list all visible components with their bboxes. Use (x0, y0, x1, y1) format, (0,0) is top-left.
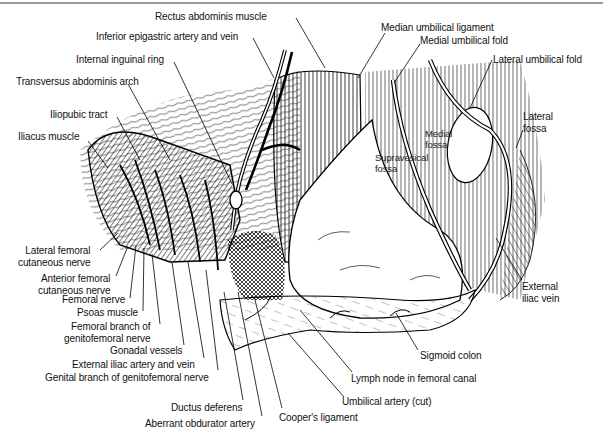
label-sigmoid-colon: Sigmoid colon (420, 350, 482, 362)
label-iliacus-muscle: Iliacus muscle (18, 131, 79, 143)
label-psoas-muscle: Psoas muscle (77, 307, 138, 319)
label-gonadal-vessels: Gonadal vessels (110, 345, 182, 357)
label-lateral-fossa: Lateral fossa (523, 111, 553, 135)
label-external-iliac-artery-vein: External iliac artery and vein (72, 359, 195, 371)
label-aberrant-obdurator-artery: Aberrant obdurator artery (145, 418, 255, 430)
label-femoral-branch-genitofemoral: Femoral branch of genitofemoral nerve (64, 321, 150, 345)
anatomy-figure: Rectus abdominis muscle Inferior epigast… (0, 0, 603, 440)
label-median-umbilical-ligament: Median umbilical ligament (381, 22, 494, 34)
label-lymph-node-femoral-canal: Lymph node in femoral canal (351, 373, 476, 385)
label-lateral-femoral-cutaneous-nerve: Lateral femoral cutaneous nerve (18, 245, 90, 269)
label-lateral-umbilical-fold: Lateral umbilical fold (493, 54, 582, 66)
label-internal-inguinal-ring: Internal inguinal ring (76, 54, 164, 66)
label-medial-fossa: Medial fossa (425, 128, 452, 150)
label-medial-umbilical-fold: Medial umbilical fold (420, 35, 508, 47)
label-ductus-deferens: Ductus deferens (171, 402, 242, 414)
label-transversus-arch: Transversus abdominis arch (16, 76, 139, 88)
label-genital-branch-genitofemoral: Genital branch of genitofemoral nerve (45, 372, 209, 384)
label-rectus-abdominis: Rectus abdominis muscle (155, 11, 267, 23)
label-femoral-nerve: Femoral nerve (62, 294, 125, 306)
label-umbilical-artery-cut: Umbilical artery (cut) (342, 396, 431, 408)
label-external-iliac-vein: External iliac vein (522, 281, 559, 305)
label-iliopubic-tract: Iliopubic tract (50, 109, 107, 121)
label-inferior-epigastric: Inferior epigastric artery and vein (96, 31, 238, 43)
label-coopers-ligament: Cooper's ligament (279, 412, 358, 424)
label-supravesical-fossa: Supravesical fossa (375, 152, 428, 174)
